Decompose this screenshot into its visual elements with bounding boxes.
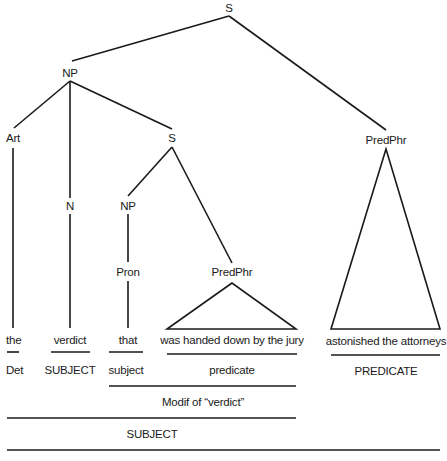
node-np-inner: NP bbox=[120, 200, 136, 212]
node-predphr-main: PredPhr bbox=[366, 134, 407, 146]
node-art: Art bbox=[6, 132, 20, 144]
node-predphr-inner: PredPhr bbox=[212, 266, 253, 278]
function-label-predicate-main: PREDICATE bbox=[354, 365, 417, 377]
leaf-phrase-main: astonished the attorneys bbox=[326, 335, 447, 347]
function-label-subject-verdict: SUBJECT bbox=[45, 364, 96, 376]
tree-edge bbox=[70, 81, 172, 129]
tree-edge bbox=[128, 147, 172, 196]
leaf-phrase-inner: was handed down by the jury bbox=[160, 334, 304, 346]
function-label-predicate-inner: predicate bbox=[209, 364, 255, 376]
function-label-det: Det bbox=[6, 364, 23, 376]
node-pron: Pron bbox=[116, 266, 140, 278]
tree-edges bbox=[13, 16, 386, 328]
leaf-verdict: verdict bbox=[54, 334, 86, 346]
constituent-triangle bbox=[331, 149, 440, 329]
constituent-triangle bbox=[167, 283, 296, 329]
tree-edge bbox=[72, 16, 229, 61]
tree-triangles bbox=[167, 149, 440, 329]
function-label-modifier: Modif of “verdict” bbox=[162, 396, 244, 408]
leaf-the: the bbox=[6, 334, 21, 346]
tree-edge bbox=[14, 81, 70, 128]
node-s-inner: S bbox=[168, 132, 175, 144]
tree-edge bbox=[172, 147, 232, 263]
leaf-that: that bbox=[119, 334, 137, 346]
node-n: N bbox=[66, 200, 74, 212]
node-np: NP bbox=[62, 67, 78, 79]
tree-edge bbox=[229, 16, 386, 130]
node-s-root: S bbox=[225, 2, 232, 14]
function-label-subject-that: subject bbox=[108, 364, 143, 376]
function-label-subject-whole: SUBJECT bbox=[127, 428, 178, 440]
